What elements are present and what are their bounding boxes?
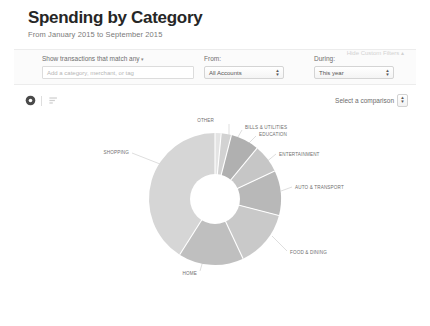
slice-label-home: HOME (183, 271, 197, 276)
stepper-arrows-icon: ▲▼ (385, 68, 390, 79)
pie-chart-view-button[interactable] (22, 93, 38, 109)
slice-label-shopping: SHOPPING (104, 150, 130, 155)
bar-list-view-button[interactable] (45, 93, 61, 109)
stepper-arrows-icon: ▲▼ (275, 68, 280, 79)
match-filter-group: Show transactions that match any ▾ Add a… (42, 54, 194, 79)
match-filter-label-text: Show transactions that match any (42, 55, 140, 62)
filter-bar: Show transactions that match any ▾ Add a… (14, 49, 416, 85)
slice-label-other: OTHER (197, 118, 214, 123)
donut-hole (190, 174, 240, 224)
date-range-select[interactable]: This year ▲▼ (314, 66, 394, 79)
match-filter-label[interactable]: Show transactions that match any ▾ (42, 54, 194, 64)
toggle-divider (41, 96, 42, 106)
leader-line-food (272, 236, 287, 251)
view-toggle-group (22, 93, 61, 109)
account-select[interactable]: All Accounts ▲▼ (204, 66, 284, 79)
page-title: Spending by Category (28, 8, 430, 28)
slice-label-auto-transport: AUTO & TRANSPORT (295, 185, 344, 190)
during-filter-group: During: This year ▲▼ (314, 54, 394, 79)
date-range-select-value: This year (319, 70, 344, 76)
comparison-select-label: Select a comparison (335, 97, 394, 104)
custom-filters-toggle[interactable]: Hide Custom Filters ▴ (347, 49, 404, 56)
bar-list-icon (48, 95, 59, 106)
page-header: Spending by Category From January 2015 t… (0, 0, 430, 39)
pie-chart-icon (25, 95, 36, 106)
spending-donut-chart: OTHER BILLS & UTILITIES EDUCATION ENTERT… (0, 111, 430, 301)
category-search-input[interactable]: Add a category, merchant, or tag (42, 66, 194, 79)
stepper-arrows-icon: ▲▼ (397, 94, 408, 107)
from-filter-group: From: All Accounts ▲▼ (204, 54, 284, 79)
slice-label-bills-utilities: BILLS & UTILITIES (245, 125, 287, 130)
leader-line-shopping (132, 153, 160, 164)
leader-line-auto (281, 187, 292, 191)
page-date-range: From January 2015 to September 2015 (28, 30, 430, 39)
account-select-value: All Accounts (209, 70, 242, 76)
donut-chart-svg: OTHER BILLS & UTILITIES EDUCATION ENTERT… (0, 111, 430, 301)
from-filter-label: From: (204, 54, 284, 64)
chevron-down-icon: ▾ (141, 56, 144, 62)
comparison-select[interactable]: Select a comparison ▲▼ (335, 94, 408, 107)
slice-label-education: EDUCATION (259, 132, 287, 137)
slice-label-food-dining: FOOD & DINING (290, 250, 327, 255)
slice-label-entertainment: ENTERTAINMENT (279, 152, 320, 157)
